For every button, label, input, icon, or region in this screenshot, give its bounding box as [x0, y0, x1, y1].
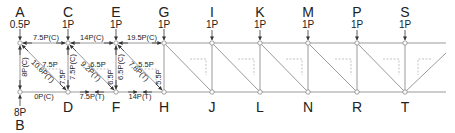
- component-EH-h: 5.5P: [138, 60, 153, 69]
- load-G: 1P: [158, 19, 171, 30]
- load-P: 1P: [351, 19, 364, 30]
- load-A: 0.5P: [10, 19, 31, 30]
- force-DF: 7.5P(T): [79, 92, 105, 101]
- load-labels: 0.5P 1P 1P 1P 1P 1P 1P 1P 1P: [10, 19, 412, 30]
- load-S: 1P: [399, 19, 412, 30]
- component-AD-v: 7.5P: [58, 69, 67, 84]
- component-CF-h: 6.5P: [90, 60, 105, 69]
- truss-diagram: A C E G I K M P S 0.5P 1P 1P 1P 1P 1P 1P…: [0, 0, 455, 133]
- load-M: 1P: [302, 19, 315, 30]
- node-label-B: B: [15, 117, 24, 133]
- force-EF: 6.5P(C): [116, 54, 125, 80]
- node-label-A: A: [15, 4, 25, 20]
- node-label-I: I: [210, 4, 214, 20]
- load-E: 1P: [110, 19, 123, 30]
- force-AB: 8P(C): [20, 57, 29, 77]
- node-label-H: H: [159, 99, 169, 115]
- node-label-P: P: [352, 4, 361, 20]
- load-I: 1P: [206, 19, 219, 30]
- node-label-T: T: [401, 99, 410, 115]
- node-label-G: G: [159, 4, 170, 20]
- node-label-R: R: [352, 99, 362, 115]
- node-label-C: C: [63, 4, 73, 20]
- force-BD: 0P(C): [34, 92, 54, 101]
- node-label-J: J: [209, 99, 216, 115]
- component-EH-v: 5.5P: [154, 69, 163, 84]
- force-CE: 14P(C): [80, 33, 104, 42]
- force-AC: 7.5P(C): [33, 33, 59, 42]
- node-label-F: F: [112, 99, 121, 115]
- load-K: 1P: [254, 19, 267, 30]
- node-label-N: N: [303, 99, 313, 115]
- force-EG: 19.5P(C): [127, 33, 158, 42]
- node-label-M: M: [302, 4, 314, 20]
- verticals: [20, 43, 405, 92]
- load-C: 1P: [62, 19, 75, 30]
- component-AD-h: 7.5P: [42, 60, 57, 69]
- component-CF-v: 6.5P: [106, 69, 115, 84]
- node-label-E: E: [111, 4, 120, 20]
- node-label-D: D: [63, 99, 73, 115]
- bottom-node-labels: 8P B D F H J L N R T: [14, 99, 410, 133]
- node-label-K: K: [255, 4, 265, 20]
- force-CD: 7.5P(C): [68, 54, 77, 80]
- force-FH: 14P(T): [129, 92, 152, 101]
- node-label-S: S: [400, 4, 409, 20]
- top-node-labels: A C E G I K M P S: [15, 4, 409, 20]
- node-label-L: L: [256, 99, 264, 115]
